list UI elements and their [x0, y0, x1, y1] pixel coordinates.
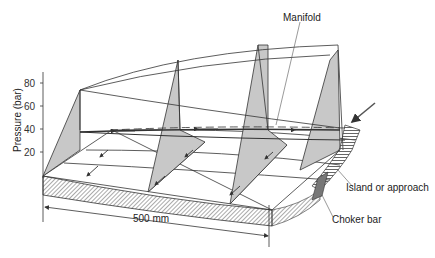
inlet-arrow [352, 103, 375, 122]
pressure-walls [43, 45, 340, 204]
tick-60: 60 [24, 101, 36, 112]
tick-80: 80 [24, 78, 36, 89]
coathanger-die-pressure-diagram: 80 60 40 20 Pressure (bar) [0, 0, 435, 258]
island-label: Island or approach [346, 182, 429, 193]
manifold-channel [80, 127, 345, 140]
pressure-axis: 80 60 40 20 Pressure (bar) [12, 72, 43, 178]
manifold-label: Manifold [283, 12, 321, 23]
tick-40: 40 [24, 124, 36, 135]
tick-20: 20 [24, 147, 36, 158]
dimension-label: 500 mm [133, 213, 169, 224]
choker-label: Choker bar [332, 214, 382, 225]
y-axis-label: Pressure (bar) [12, 88, 23, 152]
